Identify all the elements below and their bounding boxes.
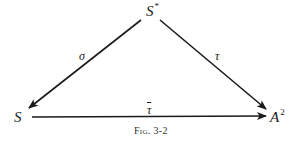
- node-s-base: S: [14, 109, 22, 125]
- node-s-star-base: S: [146, 3, 154, 19]
- figure-caption: Fig. 3-2: [134, 125, 168, 136]
- label-sigma: σ: [79, 50, 85, 62]
- arrow-tau: [160, 20, 266, 109]
- node-s-star: S*: [146, 4, 159, 19]
- diagram-canvas: [0, 0, 304, 142]
- label-tau-bar: τ: [147, 104, 151, 116]
- node-a2: A2: [270, 110, 285, 125]
- node-s-star-sup: *: [155, 1, 160, 11]
- node-s: S: [14, 110, 22, 125]
- label-tau: τ: [215, 50, 219, 62]
- node-a2-sup: 2: [280, 107, 285, 117]
- arrow-sigma: [29, 20, 141, 108]
- node-a2-base: A: [270, 109, 279, 125]
- caption-number: 3-2: [153, 125, 167, 136]
- caption-prefix: Fig.: [134, 125, 151, 136]
